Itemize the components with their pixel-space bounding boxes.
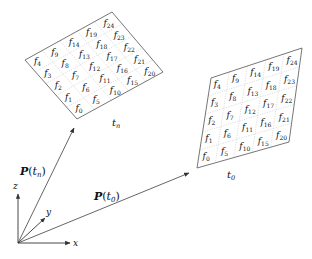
grid-cell-label: f0 [202,151,210,162]
grid-cell-label: f19 [85,27,97,38]
grid-cell-label: f8 [228,91,236,102]
grid-cell-label: f17 [262,98,274,109]
grid-cell-label: f23 [283,74,295,85]
vector-P-t0 [18,173,189,243]
grid-cell-label: f10 [238,141,250,152]
grid-cell-label: f15 [257,136,269,147]
grid-cell-label: f9 [50,47,58,58]
grid-cell-label: f1 [204,133,212,144]
grid-cell-label: f1 [64,92,72,103]
grid-cell-label: f4 [213,79,221,90]
grid-cell-label: f0 [74,103,82,114]
grid-cell-label: f2 [207,115,215,126]
vector-P-tn [18,128,74,243]
grid-cell-label: f19 [267,61,279,72]
grid-cell-label: f6 [223,128,231,139]
grid-cell-label: f17 [106,51,118,62]
grid-cell-label: f3 [43,68,51,79]
grid-cell-label: f21 [278,112,290,123]
grid-cell-label: f20 [143,66,155,77]
grid-cell-label: f24 [286,55,298,66]
grid-cell-label: f16 [259,117,271,128]
axes: z y x [12,181,78,248]
grid-cell-label: f2 [54,80,62,91]
grid-cell-label: f14 [68,37,80,48]
grid-cell-label: f9 [231,73,239,84]
grid-cell-label: f20 [275,130,287,141]
grid-t0-time-label: t0 [227,169,235,182]
grid-cell-label: f14 [249,67,261,78]
grid-cell-label: f5 [92,94,100,105]
grid-t0: f4f9f14f19f24f3f8f13f18f23f2f7f12f17f22f… [197,48,302,168]
grid-cell-label: f18 [95,39,107,50]
grid-cell-label: f21 [133,54,145,65]
grid-cell-label: f3 [210,97,218,108]
grid-cell-label: f6 [81,82,89,93]
grid-cell-label: f13 [246,86,258,97]
x-axis-label: x [73,238,78,248]
vector-label-P-tn: P(tn) [19,165,46,179]
grid-cell-label: f24 [102,18,114,29]
grid-cell-label: f7 [225,110,233,121]
grid-cell-label: f13 [78,49,90,60]
grid-cell-label: f12 [88,61,100,72]
grid-cell-label: f12 [244,104,256,115]
grid-cell-label: f23 [113,30,125,41]
z-axis-label: z [12,181,18,191]
y-axis [18,218,45,243]
grid-cell-label: f22 [123,42,135,53]
grid-cell-label: f11 [99,73,111,84]
grid-cell-label: f10 [109,85,121,96]
grid-tn: f4f9f14f19f24f3f8f13f18f23f2f7f12f17f22f… [25,12,163,119]
grid-cell-label: f22 [280,93,292,104]
grid-cell-label: f15 [126,75,138,86]
grid-tn-time-label: tn [112,117,120,130]
grid-cell-label: f18 [265,80,277,91]
grid-cell-label: f7 [71,70,79,81]
grid-cell-label: f11 [241,122,253,133]
grid-cell-label: f5 [220,146,228,157]
y-axis-label: y [45,207,52,217]
vector-label-P-t0: P(t0) [93,190,120,204]
grid-cell-label: f4 [33,56,41,67]
coordinate-diagram: f4f9f14f19f24f3f8f13f18f23f2f7f12f17f22f… [0,0,312,259]
grid-cell-label: f16 [116,63,128,74]
grid-cell-label: f8 [61,58,69,69]
